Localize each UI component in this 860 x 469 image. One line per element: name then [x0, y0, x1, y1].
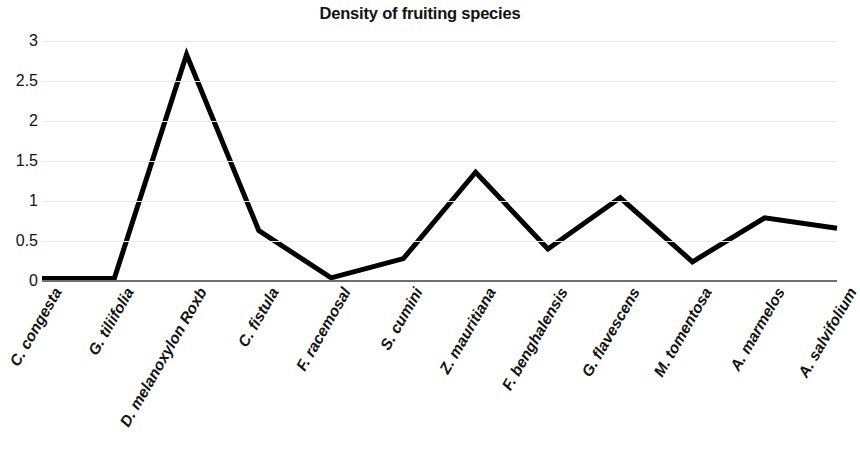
plot-area — [42, 41, 837, 281]
y-axis-tick-label: 1.5 — [2, 153, 38, 169]
x-axis-baseline — [42, 280, 837, 282]
gridline — [42, 161, 837, 162]
x-axis-tick-label: C. fistula — [235, 285, 281, 349]
gridline — [42, 201, 837, 202]
y-axis-tick-label: 3 — [2, 33, 38, 49]
gridline — [42, 81, 837, 82]
y-axis-tick-label: 1 — [2, 193, 38, 209]
y-axis-tick-label: 2 — [2, 113, 38, 129]
x-axis-tick-label: M. tomentosa — [652, 285, 715, 379]
x-axis-tick-label: G. tiliifolia — [86, 285, 137, 358]
gridline — [42, 241, 837, 242]
y-axis-tick-label: 0 — [2, 273, 38, 289]
x-axis-tick-label: F. racemosal — [294, 285, 354, 373]
x-axis-tick-label: C. congesta — [7, 285, 64, 369]
gridline — [42, 41, 837, 42]
y-axis-tick-label: 0.5 — [2, 233, 38, 249]
x-axis-tick-label: A. marmelos — [727, 285, 787, 373]
x-axis-tick-label: F. benghalensis — [499, 285, 570, 393]
x-axis: C. congestaG. tiliifoliaD. melanoxylon R… — [42, 285, 837, 469]
x-axis-tick-label: G. flavescens — [579, 285, 642, 379]
x-axis-tick-label: S. cumini — [378, 285, 426, 352]
x-axis-tick-label: A. salvifolium — [796, 285, 860, 380]
x-axis-tick-label: D. melanoxylon Roxb — [117, 285, 209, 429]
gridline — [42, 121, 837, 122]
y-axis: 00.511.522.53 — [0, 41, 38, 281]
x-axis-tick-label: Z. mauritiana — [436, 285, 498, 376]
y-axis-tick-label: 2.5 — [2, 73, 38, 89]
chart-title: Density of fruiting species — [0, 4, 840, 23]
